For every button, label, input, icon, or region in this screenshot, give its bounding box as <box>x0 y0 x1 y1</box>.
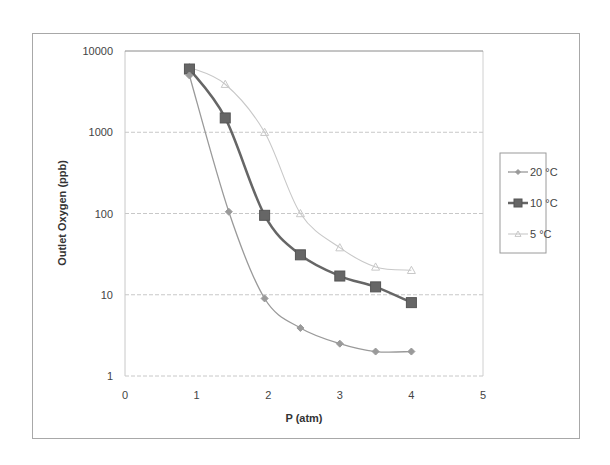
y-tick-label: 100 <box>95 208 113 220</box>
square-marker <box>514 199 522 207</box>
y-tick-label: 10000 <box>82 45 113 57</box>
square-marker <box>260 210 270 220</box>
x-tick-label: 4 <box>408 389 414 401</box>
series-5Cc <box>185 63 415 273</box>
x-tick-label: 2 <box>265 389 271 401</box>
y-tick-label: 10 <box>101 289 113 301</box>
y-axis-ticks: 110100100010000 <box>82 45 113 382</box>
x-tick-label: 1 <box>194 389 200 401</box>
legend: 20 °C10 °C5 °C <box>500 153 558 253</box>
legend-item: 10 °C <box>508 197 558 209</box>
square-marker <box>406 298 416 308</box>
series-layer <box>184 63 416 355</box>
x-tick-label: 0 <box>122 389 128 401</box>
series-line <box>189 67 411 270</box>
line-chart: 110100100010000 012345 P (atm) Outlet Ox… <box>0 0 610 465</box>
square-marker <box>220 113 230 123</box>
y-axis-title: Outlet Oxygen (ppb) <box>56 160 68 266</box>
diamond-marker <box>408 348 415 355</box>
y-tick-label: 1000 <box>89 126 113 138</box>
diamond-marker <box>372 348 379 355</box>
diamond-marker <box>336 340 343 347</box>
y-tick-label: 1 <box>107 370 113 382</box>
legend-label: 5 °C <box>530 228 552 240</box>
x-axis-ticks: 012345 <box>122 389 486 401</box>
x-tick-label: 5 <box>480 389 486 401</box>
square-marker <box>371 282 381 292</box>
diamond-marker <box>225 208 232 215</box>
square-marker <box>335 271 345 281</box>
square-marker <box>295 250 305 260</box>
diamond-marker <box>297 324 304 331</box>
legend-label: 10 °C <box>530 197 558 209</box>
x-axis-title: P (atm) <box>285 412 322 424</box>
diamond-marker <box>261 295 268 302</box>
x-tick-label: 3 <box>337 389 343 401</box>
legend-label: 20 °C <box>530 166 558 178</box>
gridlines <box>125 51 483 376</box>
series-10Cc <box>184 64 416 308</box>
